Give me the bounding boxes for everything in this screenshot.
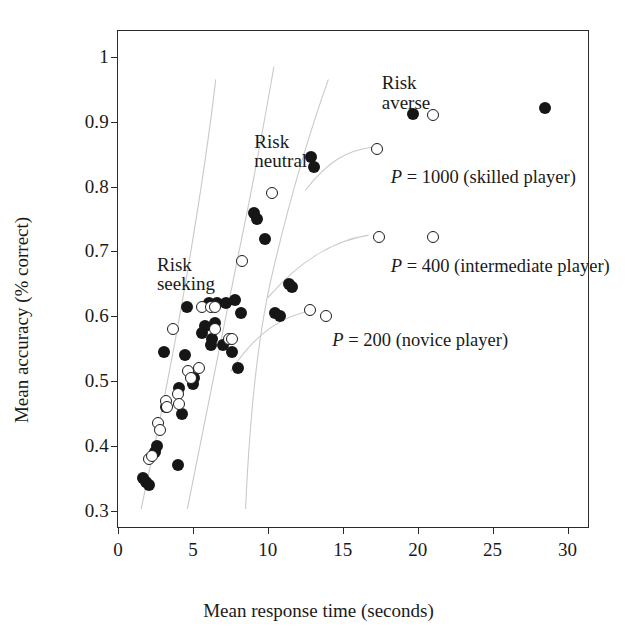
y-tick-mark — [111, 187, 118, 188]
y-tick-label: 1 — [99, 46, 109, 68]
data-point-open — [371, 143, 383, 155]
data-point-filled — [286, 281, 298, 293]
data-point-filled — [232, 362, 244, 374]
data-point-open — [373, 231, 385, 243]
data-point-open — [427, 231, 439, 243]
data-point-open — [209, 323, 221, 335]
risk-seeking: Risk seeking — [157, 255, 215, 295]
data-point-open — [167, 323, 179, 335]
risk-averse: Risk averse — [382, 73, 431, 113]
data-point-filled — [274, 310, 286, 322]
y-tick-mark — [111, 57, 118, 58]
data-point-open — [236, 255, 248, 267]
p-1000-label-text: = 1000 (skilled player) — [402, 167, 576, 187]
data-point-open — [146, 450, 158, 462]
x-tick-label: 20 — [408, 539, 427, 561]
p-400-label-symbol: P — [391, 256, 402, 276]
data-point-filled — [226, 346, 238, 358]
y-tick-label: 0.4 — [85, 435, 109, 457]
x-tick-label: 5 — [188, 539, 198, 561]
x-tick-label: 15 — [333, 539, 352, 561]
y-tick-label: 0.3 — [85, 500, 109, 522]
x-tick-mark — [568, 527, 569, 534]
data-point-open — [154, 424, 166, 436]
p-200-label-symbol: P — [332, 330, 343, 350]
p-400-curve — [268, 235, 369, 298]
y-tick-mark — [111, 122, 118, 123]
data-point-open — [161, 401, 173, 413]
data-point-open — [173, 398, 185, 410]
data-point-filled — [259, 233, 271, 245]
x-tick-mark — [118, 527, 119, 534]
y-tick-label: 0.6 — [85, 305, 109, 327]
y-axis-title: Mean accuracy (% correct) — [11, 155, 33, 485]
data-point-filled — [172, 459, 184, 471]
y-tick-label: 0.7 — [85, 240, 109, 262]
data-point-open — [266, 187, 278, 199]
p-1000-label-symbol: P — [391, 167, 402, 187]
y-tick-label: 0.5 — [85, 370, 109, 392]
data-point-open — [226, 333, 238, 345]
p-200-curve — [231, 310, 315, 371]
data-point-filled — [158, 346, 170, 358]
p-200-label-text: = 200 (novice player) — [344, 330, 509, 350]
data-point-filled — [251, 213, 263, 225]
p-400-label-text: = 400 (intermediate player) — [402, 256, 610, 276]
y-tick-mark — [111, 511, 118, 512]
x-tick-mark — [193, 527, 194, 534]
x-tick-label: 10 — [258, 539, 277, 561]
data-point-filled — [181, 301, 193, 313]
x-tick-label: 25 — [483, 539, 502, 561]
risk-neutral: Risk neutral — [254, 132, 307, 172]
x-tick-mark — [418, 527, 419, 534]
y-tick-mark — [111, 446, 118, 447]
x-tick-mark — [493, 527, 494, 534]
p-1000-label: P = 1000 (skilled player) — [391, 168, 576, 187]
plot-area: 0.30.40.50.60.70.80.91051015202530Risk s… — [117, 30, 589, 528]
y-tick-label: 0.9 — [85, 111, 109, 133]
data-point-filled — [539, 102, 551, 114]
data-point-filled — [179, 349, 191, 361]
data-point-open — [193, 362, 205, 374]
y-tick-mark — [111, 316, 118, 317]
data-point-open — [304, 304, 316, 316]
data-point-filled — [143, 479, 155, 491]
data-point-filled — [235, 307, 247, 319]
y-tick-mark — [111, 381, 118, 382]
scatter-plot-figure: 0.30.40.50.60.70.80.91051015202530Risk s… — [0, 0, 637, 640]
y-tick-label: 0.8 — [85, 176, 109, 198]
y-tick-mark — [111, 251, 118, 252]
data-point-open — [320, 310, 332, 322]
data-point-open — [209, 301, 221, 313]
p-400-label: P = 400 (intermediate player) — [391, 257, 610, 276]
x-axis-title: Mean response time (seconds) — [0, 600, 637, 622]
x-tick-mark — [268, 527, 269, 534]
x-tick-label: 30 — [558, 539, 577, 561]
p-200-label: P = 200 (novice player) — [332, 331, 508, 350]
data-point-filled — [229, 294, 241, 306]
data-point-filled — [308, 161, 320, 173]
x-tick-label: 0 — [113, 539, 123, 561]
x-tick-mark — [343, 527, 344, 534]
